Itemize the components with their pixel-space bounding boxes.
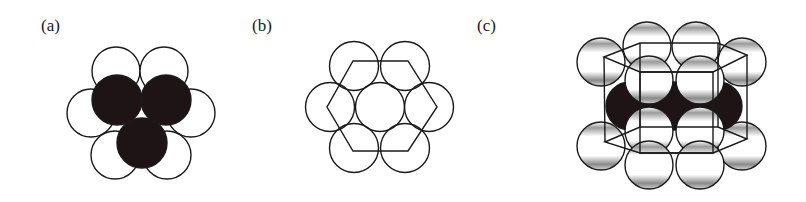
panel-c-hcp-unit-cell: [577, 22, 766, 189]
vertical-edge-left: [604, 57, 605, 142]
front-top-sphere: [625, 56, 673, 104]
dark-sphere: [92, 75, 142, 125]
dark-sphere: [141, 75, 191, 125]
front-bottom-sphere: [625, 141, 673, 189]
back-sphere: [718, 38, 766, 86]
diagram-canvas: [0, 0, 806, 202]
front-top-sphere: [676, 56, 724, 104]
sphere-outline: [381, 124, 430, 173]
panel-b-hexagonal-layer: [306, 42, 454, 173]
dark-sphere: [117, 118, 167, 168]
front-bottom-sphere: [676, 141, 724, 189]
sphere-outline: [330, 124, 379, 173]
panel-a-close-packed-layers: [67, 47, 215, 179]
